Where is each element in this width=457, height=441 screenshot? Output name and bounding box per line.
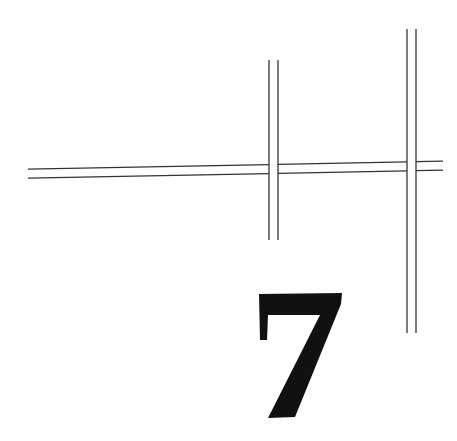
horizontal-double-rule-middle-segment — [278, 162, 407, 174]
chapter-numeral-seven-shape — [259, 293, 342, 418]
horizontal-double-rule-left-segment — [28, 165, 269, 179]
double-rule-line-art — [0, 0, 457, 441]
vertical-double-rule-right — [407, 29, 416, 333]
chapter-opener-page: 7 — [0, 0, 457, 441]
horizontal-double-rule-right-segment — [416, 161, 443, 171]
vertical-double-rule-left — [269, 60, 278, 240]
